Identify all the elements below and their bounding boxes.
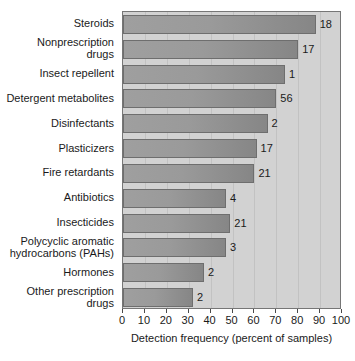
category-label: Nonprescriptiondrugs xyxy=(0,36,114,60)
category-label-line: Nonprescription xyxy=(0,36,114,48)
bar-rows: 181715621721421322 xyxy=(123,12,340,308)
x-tickmark xyxy=(166,309,167,313)
bar-value-label: 4 xyxy=(230,193,236,204)
category-label-line: drugs xyxy=(0,297,114,309)
bar-row: 18 xyxy=(123,12,340,37)
bar-value-label: 21 xyxy=(234,218,246,229)
x-tick-label: 50 xyxy=(225,314,237,326)
x-tick-label: 60 xyxy=(247,314,259,326)
bar-row: 21 xyxy=(123,161,340,186)
bar-value-label: 21 xyxy=(258,168,270,179)
category-label-line: Disinfectants xyxy=(0,117,114,129)
bar-row: 2 xyxy=(123,260,340,285)
bar-value-label: 17 xyxy=(261,143,273,154)
x-tickmark xyxy=(341,309,342,313)
category-label-line: Other prescription xyxy=(0,285,114,297)
bar xyxy=(123,40,298,59)
bar-row: 17 xyxy=(123,136,340,161)
bar xyxy=(123,288,193,307)
bar xyxy=(123,89,276,108)
category-label: Detergent metabolites xyxy=(0,92,114,104)
category-label: Disinfectants xyxy=(0,117,114,129)
x-axis-title: Detection frequency (percent of samples) xyxy=(122,332,341,344)
category-label-line: Fire retardants xyxy=(0,166,114,178)
category-label: Plasticizers xyxy=(0,142,114,154)
x-tick-label: 40 xyxy=(203,314,215,326)
x-tick-label: 70 xyxy=(269,314,281,326)
bar xyxy=(123,164,254,183)
bar-value-label: 18 xyxy=(320,19,332,30)
bar xyxy=(123,65,285,84)
x-tick-label: 90 xyxy=(313,314,325,326)
bar-value-label: 17 xyxy=(302,44,314,55)
category-label-line: drugs xyxy=(0,48,114,60)
x-tickmark xyxy=(275,309,276,313)
bar xyxy=(123,263,204,282)
category-label-line: Detergent metabolites xyxy=(0,92,114,104)
category-label-line: Polycyclic aromatic xyxy=(0,235,114,247)
category-label-line: Steroids xyxy=(0,17,114,29)
category-label: Insect repellent xyxy=(0,67,114,79)
category-label-line: Antibiotics xyxy=(0,191,114,203)
bar-value-label: 2 xyxy=(208,267,214,278)
x-tickmark xyxy=(319,309,320,313)
bar-row: 1 xyxy=(123,62,340,87)
bar-row: 4 xyxy=(123,186,340,211)
x-tick-label: 100 xyxy=(332,314,350,326)
category-label-line: Insect repellent xyxy=(0,67,114,79)
bar-value-label: 3 xyxy=(230,242,236,253)
category-label: Hormones xyxy=(0,266,114,278)
bar-row: 2 xyxy=(123,285,340,310)
x-tickmark xyxy=(144,309,145,313)
bar-value-label: 2 xyxy=(272,118,278,129)
bar-row: 56 xyxy=(123,87,340,112)
category-label-line: Insecticides xyxy=(0,216,114,228)
x-axis-tick-labels: 0102030405060708090100 xyxy=(0,314,355,328)
category-label-line: Hormones xyxy=(0,266,114,278)
bar-row: 3 xyxy=(123,236,340,261)
bar-value-label: 1 xyxy=(289,69,295,80)
x-tick-label: 20 xyxy=(160,314,172,326)
bar-row: 2 xyxy=(123,111,340,136)
category-label: Fire retardants xyxy=(0,166,114,178)
x-tickmark xyxy=(122,309,123,313)
category-label-line: hydrocarbons (PAHs) xyxy=(0,247,114,259)
bar xyxy=(123,214,230,233)
bar xyxy=(123,238,226,257)
bar xyxy=(123,189,226,208)
category-label: Polycyclic aromatichydrocarbons (PAHs) xyxy=(0,235,114,259)
bar-value-label: 56 xyxy=(280,93,292,104)
category-axis-labels: SteroidsNonprescriptiondrugsInsect repel… xyxy=(0,11,118,309)
bar xyxy=(123,139,257,158)
category-label: Antibiotics xyxy=(0,191,114,203)
bar-row: 21 xyxy=(123,211,340,236)
x-tick-label: 0 xyxy=(119,314,125,326)
plot-area: 181715621721421322 xyxy=(122,11,341,309)
x-tickmark xyxy=(210,309,211,313)
category-label-line: Plasticizers xyxy=(0,142,114,154)
category-label: Insecticides xyxy=(0,216,114,228)
x-tick-label: 30 xyxy=(182,314,194,326)
category-label: Other prescriptiondrugs xyxy=(0,285,114,309)
bar xyxy=(123,114,268,133)
category-label: Steroids xyxy=(0,17,114,29)
bar-value-label: 2 xyxy=(197,292,203,303)
x-tickmark xyxy=(232,309,233,313)
x-tick-label: 10 xyxy=(138,314,150,326)
bar-row: 17 xyxy=(123,37,340,62)
x-tickmark xyxy=(253,309,254,313)
x-tickmark xyxy=(188,309,189,313)
x-tick-label: 80 xyxy=(291,314,303,326)
bar xyxy=(123,15,316,34)
bar-chart: SteroidsNonprescriptiondrugsInsect repel… xyxy=(0,0,355,361)
x-tickmark xyxy=(297,309,298,313)
